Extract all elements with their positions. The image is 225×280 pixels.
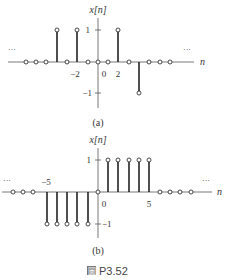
plot-a-sublabel: (a) — [92, 117, 103, 129]
plot-a: x[n] n 1 −1 −2 0 2 ··· ··· (a) — [8, 4, 205, 129]
plot-a-xtick-label-neg2: −2 — [70, 69, 80, 79]
plot-b-ytick-label-neg1: −1 — [102, 219, 112, 229]
plot-a-ytick-label-1: 1 — [86, 25, 91, 35]
plot-b-ellipsis-left: ··· — [3, 176, 11, 185]
figure-canvas: x[n] n 1 −1 −2 0 2 ··· ··· (a) — [0, 0, 225, 280]
plot-a-ellipsis-left: ··· — [8, 45, 16, 54]
plot-b-ylabel: x[n] — [88, 134, 106, 145]
plot-b-ellipsis-right: ··· — [202, 176, 210, 185]
plot-a-xtick-label-0: 0 — [102, 69, 107, 79]
plot-b-sublabel: (b) — [92, 245, 104, 257]
caption-prefix: 圖 — [88, 267, 96, 276]
plot-b-xtick-label-0: 0 — [102, 199, 107, 209]
plot-a-xtick-label-2: 2 — [116, 69, 121, 79]
plot-a-ylabel: x[n] — [88, 4, 106, 15]
plot-b-xtick-label-neg5: −5 — [41, 177, 51, 187]
figure-caption: 圖 P3.52 — [87, 265, 128, 277]
plot-b-ytick-label-1: 1 — [87, 155, 92, 165]
plot-a-ytick-label-neg1: −1 — [82, 88, 92, 98]
plot-a-ellipsis-right: ··· — [183, 45, 191, 54]
caption-number: P3.52 — [99, 265, 128, 277]
plot-b-xtick-label-5: 5 — [147, 199, 152, 209]
plot-b-xlabel: n — [217, 186, 222, 197]
plot-a-xlabel: n — [200, 56, 205, 67]
plot-b: x[n] n 1 −1 −5 0 5 ··· ··· (b) — [2, 134, 222, 257]
